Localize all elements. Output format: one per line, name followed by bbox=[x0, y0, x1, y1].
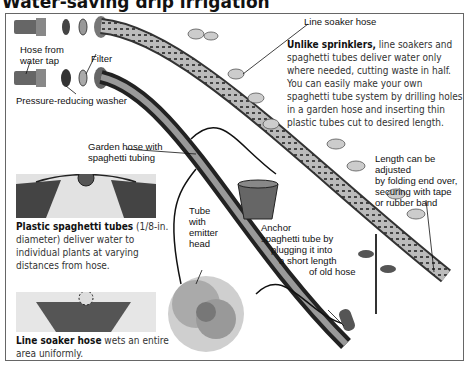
intro-text: Unlike sprinklers, line soakers and spag… bbox=[287, 38, 464, 129]
label-anchor: Anchor spaghetti tube by plugging it int… bbox=[261, 222, 355, 277]
caption-soaker: Line soaker hose wets an entire area uni… bbox=[16, 334, 176, 360]
fittings-top bbox=[14, 16, 108, 38]
fittings-bottom bbox=[14, 67, 108, 89]
label-garden-hose: Garden hose with spaghetti tubing bbox=[88, 141, 162, 163]
diagram-frame: Line soaker hose Hose from water tap Fil… bbox=[5, 13, 464, 361]
inset-spaghetti-cross-section bbox=[16, 174, 156, 218]
label-length-adjust: Length can be adjusted by folding end ov… bbox=[375, 153, 463, 208]
label-pressure-washer: Pressure-reducing washer bbox=[16, 95, 127, 106]
label-tube-emitter: Tube with emitter head bbox=[189, 205, 218, 249]
pot bbox=[238, 184, 278, 219]
label-filter: Filter bbox=[91, 53, 112, 64]
label-hose-from-tap: Hose from water tap bbox=[20, 44, 64, 66]
diagram-title: Water-saving drip irrigation bbox=[2, 0, 270, 12]
caption-spaghetti: Plastic spaghetti tubes (1/8-in. diamete… bbox=[16, 220, 176, 272]
lettuce bbox=[168, 276, 244, 352]
label-line-soaker-hose: Line soaker hose bbox=[304, 16, 376, 27]
inset-soaker-cross-section bbox=[16, 292, 156, 332]
